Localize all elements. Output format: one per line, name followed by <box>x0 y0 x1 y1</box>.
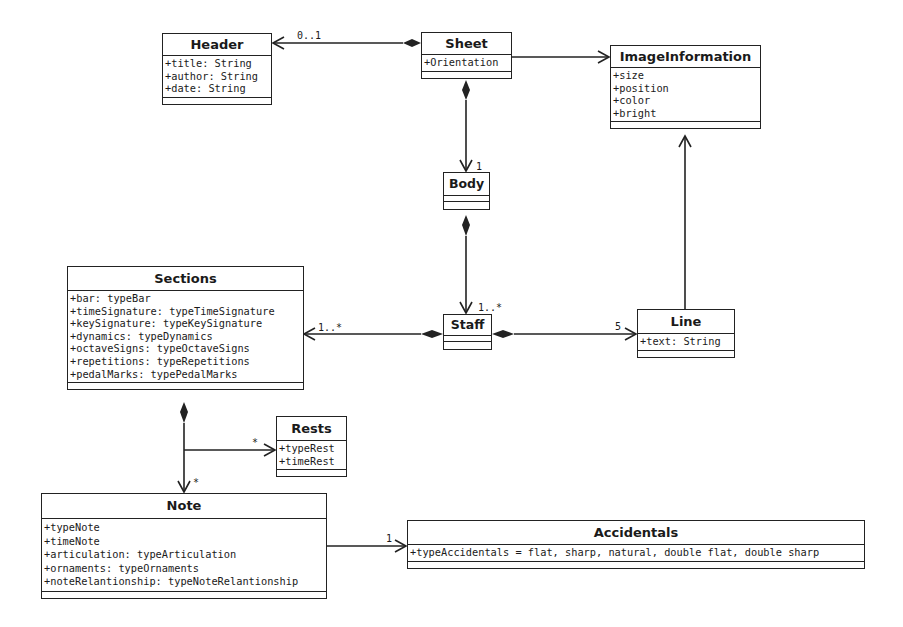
attribute: +keySignature: typeKeySignature <box>70 317 301 330</box>
attribute: +timeSignature: typeTimeSignature <box>70 305 301 318</box>
class-sheet[interactable]: Sheet +Orientation <box>421 32 512 79</box>
attribute: +position <box>613 82 758 95</box>
class-name: Staff <box>444 315 491 336</box>
multiplicity-sections: 1..* <box>318 322 342 333</box>
edge-sheet-body <box>462 80 470 171</box>
composition-diamond-icon <box>462 80 470 100</box>
attribute: +typeAccidentals = flat, sharp, natural,… <box>410 546 862 559</box>
attribute: +timeNote <box>44 535 324 549</box>
edge-sections-note <box>180 402 188 492</box>
attribute: +color <box>613 94 758 107</box>
class-name: Header <box>163 34 271 56</box>
class-attributes: +typeRest +timeRest <box>277 441 346 470</box>
class-operations <box>163 98 271 104</box>
class-operations <box>444 202 489 209</box>
class-operations <box>611 122 760 128</box>
attribute: +bar: typeBar <box>70 292 301 305</box>
class-attributes: +text: String <box>638 334 734 351</box>
attribute: +pedalMarks: typePedalMarks <box>70 368 301 381</box>
class-rests[interactable]: Rests +typeRest +timeRest <box>276 416 347 477</box>
multiplicity-rests: * <box>252 437 258 448</box>
class-attributes: +Orientation <box>422 55 511 72</box>
composition-diamond-icon <box>492 330 514 338</box>
attribute: +date: String <box>165 82 269 95</box>
composition-diamond-icon <box>421 330 443 338</box>
class-operations <box>638 351 734 357</box>
class-name: Line <box>638 310 734 334</box>
class-attributes: +title: String +author: String +date: St… <box>163 56 271 98</box>
attribute: +typeRest <box>279 442 344 455</box>
class-operations <box>68 383 303 389</box>
class-name: ImageInformation <box>611 46 760 68</box>
class-body[interactable]: Body <box>443 172 490 210</box>
attribute: +bright <box>613 107 758 120</box>
attribute: +noteRelantionship: typeNoteRelantionshi… <box>44 575 324 589</box>
multiplicity-body: 1 <box>476 161 482 172</box>
attribute: +timeRest <box>279 455 344 468</box>
attribute: +typeNote <box>44 521 324 535</box>
multiplicity-accidentals: 1 <box>386 533 392 544</box>
class-staff[interactable]: Staff <box>443 314 492 350</box>
class-sections[interactable]: Sections +bar: typeBar +timeSignature: t… <box>67 266 304 390</box>
class-name: Rests <box>277 417 346 441</box>
class-name: Sections <box>68 267 303 291</box>
attribute: +dynamics: typeDynamics <box>70 330 301 343</box>
attribute: +Orientation <box>424 56 509 69</box>
class-imageinformation[interactable]: ImageInformation +size +position +color … <box>610 45 761 129</box>
attribute: +repetitions: typeRepetitions <box>70 355 301 368</box>
multiplicity-header: 0..1 <box>297 30 321 41</box>
edge-sheet-header <box>273 39 421 47</box>
attribute: +articulation: typeArticulation <box>44 548 324 562</box>
multiplicity-staff: 1..* <box>478 302 502 313</box>
class-accidentals[interactable]: Accidentals +typeAccidentals = flat, sha… <box>407 520 865 569</box>
class-attributes: +size +position +color +bright <box>611 68 760 122</box>
class-attributes: +typeNote +timeNote +articulation: typeA… <box>42 519 326 592</box>
attribute: +ornaments: typeOrnaments <box>44 562 324 576</box>
class-header[interactable]: Header +title: String +author: String +d… <box>162 33 272 105</box>
multiplicity-line: 5 <box>615 321 621 332</box>
class-line[interactable]: Line +text: String <box>637 309 735 358</box>
composition-diamond-icon <box>403 39 421 47</box>
class-operations <box>422 72 511 78</box>
edge-body-staff <box>462 215 470 313</box>
class-name: Note <box>42 494 326 519</box>
class-name: Sheet <box>422 33 511 55</box>
attribute: +author: String <box>165 70 269 83</box>
attribute: +size <box>613 69 758 82</box>
class-attributes: +typeAccidentals = flat, sharp, natural,… <box>408 545 864 562</box>
class-name: Body <box>444 173 489 196</box>
class-operations <box>42 592 326 598</box>
composition-diamond-icon <box>180 402 188 423</box>
class-name: Accidentals <box>408 521 864 545</box>
multiplicity-note: * <box>193 477 199 488</box>
class-note[interactable]: Note +typeNote +timeNote +articulation: … <box>41 493 327 599</box>
class-operations <box>277 470 346 476</box>
class-attributes: +bar: typeBar +timeSignature: typeTimeSi… <box>68 291 303 383</box>
class-operations <box>444 342 491 349</box>
attribute: +octaveSigns: typeOctaveSigns <box>70 342 301 355</box>
attribute: +text: String <box>640 335 732 348</box>
composition-diamond-icon <box>462 215 470 236</box>
attribute: +title: String <box>165 57 269 70</box>
class-operations <box>408 562 864 568</box>
